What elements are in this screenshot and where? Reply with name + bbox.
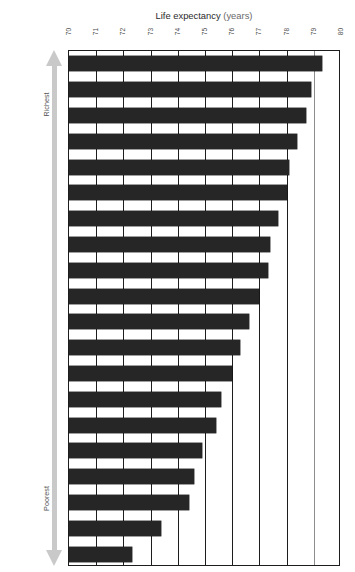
x-tick-label-70: 70 (65, 23, 72, 41)
bar-row (69, 361, 340, 387)
bar (69, 211, 278, 226)
bar-row (69, 386, 340, 412)
arrow-shaft (52, 64, 57, 552)
bar (69, 340, 240, 355)
bar-row (69, 257, 340, 283)
x-tick-label-79: 79 (309, 23, 316, 41)
bar (69, 185, 287, 200)
bar-row (69, 128, 340, 154)
bar (69, 443, 202, 458)
x-tick-label-75: 75 (201, 23, 208, 41)
bar-row (69, 490, 340, 516)
x-axis-title: Life expectancy (years) (68, 10, 340, 21)
bar (69, 392, 221, 407)
x-tick-label-72: 72 (119, 23, 126, 41)
bar (69, 314, 249, 329)
x-tick-label-78: 78 (282, 23, 289, 41)
x-axis-tick-labels: 7071727374757677787980 (68, 26, 340, 48)
x-tick-label-80: 80 (337, 23, 344, 41)
bar-row (69, 309, 340, 335)
x-tick-label-74: 74 (173, 23, 180, 41)
bar (69, 160, 289, 175)
x-tick-label-77: 77 (255, 23, 262, 41)
arrow-down-icon (46, 550, 62, 566)
bar (69, 469, 194, 484)
x-tick-label-76: 76 (228, 23, 235, 41)
x-tick-label-71: 71 (92, 23, 99, 41)
bar-row (69, 232, 340, 258)
bar-row (69, 206, 340, 232)
bar (69, 263, 268, 278)
bar-row (69, 77, 340, 103)
bar (69, 289, 259, 304)
bar (69, 237, 270, 252)
bar-series (69, 51, 339, 565)
bar-row (69, 412, 340, 438)
bar (69, 82, 311, 97)
bar (69, 521, 161, 536)
range-label-poorest: Poorest (42, 477, 51, 521)
bar-row (69, 464, 340, 490)
bar-row (69, 154, 340, 180)
bar-row (69, 103, 340, 129)
x-axis-title-unit: (years) (223, 10, 252, 21)
bar-row (69, 283, 340, 309)
bar (69, 56, 322, 71)
bar-row (69, 335, 340, 361)
bar (69, 108, 306, 123)
bar-row (69, 51, 340, 77)
plot-area (68, 50, 340, 566)
bar (69, 366, 232, 381)
bar-row (69, 515, 340, 541)
bar (69, 547, 132, 562)
bar (69, 495, 189, 510)
bar-row (69, 438, 340, 464)
x-tick-label-73: 73 (146, 23, 153, 41)
bar-row (69, 541, 340, 566)
x-axis-title-main: Life expectancy (156, 10, 221, 21)
figure-canvas: Figure 3: Life expectancy is strongly re… (0, 0, 355, 572)
bar-row (69, 180, 340, 206)
bar (69, 134, 297, 149)
bar (69, 418, 216, 433)
range-label-richest: Richest (42, 83, 51, 127)
